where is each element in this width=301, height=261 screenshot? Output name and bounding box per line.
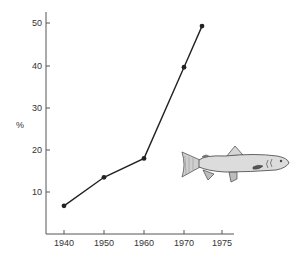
data-point: [200, 24, 205, 29]
data-point: [62, 203, 67, 208]
y-tick-label: 40: [32, 61, 42, 71]
y-axis-label: %: [16, 120, 24, 130]
y-tick-label: 10: [32, 187, 42, 197]
x-tick-label: 1975: [212, 238, 232, 248]
y-tick-label: 20: [32, 145, 42, 155]
y-tick-label: 50: [32, 18, 42, 28]
data-points: [62, 24, 205, 209]
x-tick-label: 1960: [134, 238, 154, 248]
line-chart: 10 20 30 40 50 % 1940 1950 1960 1970 197…: [0, 0, 301, 261]
data-line: [64, 26, 202, 206]
x-tick-label: 1970: [174, 238, 194, 248]
y-ticks: [46, 23, 50, 192]
data-point: [142, 156, 147, 161]
x-tick-label: 1950: [94, 238, 114, 248]
x-tick-label: 1940: [54, 238, 74, 248]
fish-tail-icon: [182, 152, 200, 177]
data-point: [182, 65, 187, 70]
y-tick-labels: 10 20 30 40 50: [32, 18, 42, 197]
x-tick-labels: 1940 1950 1960 1970 1975: [54, 238, 232, 248]
fish-body-icon: [199, 155, 289, 173]
data-point: [102, 175, 107, 180]
fish-illustration: [182, 146, 289, 182]
x-ticks: [64, 230, 222, 234]
y-tick-label: 30: [32, 103, 42, 113]
